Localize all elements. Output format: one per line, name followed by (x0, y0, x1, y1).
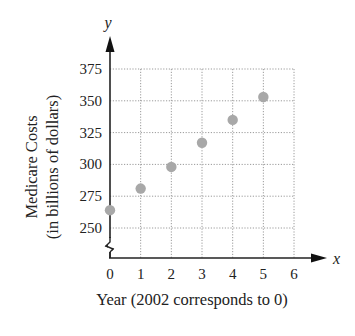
x-tick-label: 3 (198, 266, 206, 282)
data-point (227, 115, 237, 125)
x-tick-label: 6 (290, 266, 298, 282)
y-axis-label-line1: Medicare Costs (22, 115, 41, 218)
x-axis-label: Year (2002 corresponds to 0) (96, 290, 288, 309)
x-tick-label: 5 (260, 266, 268, 282)
y-tick-labels: 250275300325350375 (80, 61, 103, 236)
y-axis-label-line2: (in billions of dollars) (43, 95, 62, 239)
x-tick-label: 2 (168, 266, 176, 282)
y-axis-arrow-icon (106, 36, 115, 52)
data-point (105, 205, 115, 215)
y-tick-label: 275 (80, 188, 103, 204)
y-tick-label: 250 (80, 220, 103, 236)
x-tick-label: 1 (137, 266, 145, 282)
data-point (197, 138, 207, 148)
y-tick-label: 350 (80, 93, 103, 109)
data-point (135, 183, 145, 193)
x-axis-variable: x (332, 250, 340, 267)
x-tick-labels: 0123456 (106, 266, 298, 282)
scatter-chart: 250275300325350375 0123456 y x Year (200… (0, 0, 355, 336)
data-point (166, 162, 176, 172)
data-points (105, 92, 269, 216)
y-tick-label: 325 (80, 125, 103, 141)
y-tick-label: 375 (80, 61, 103, 77)
y-tick-label: 300 (80, 156, 103, 172)
data-point (258, 92, 268, 102)
y-axis-variable: y (102, 14, 112, 32)
x-tick-label: 4 (229, 266, 237, 282)
x-axis-arrow-icon (311, 254, 327, 263)
x-tick-label: 0 (106, 266, 114, 282)
